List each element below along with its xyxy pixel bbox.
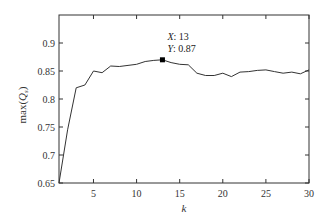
x-tick-label: 20 <box>218 188 228 199</box>
x-tick-label: 10 <box>132 188 142 199</box>
y-tick-label: 0.75 <box>38 122 56 133</box>
y-tick-label: 0.65 <box>38 178 56 189</box>
x-tick-label: 5 <box>91 188 96 199</box>
x-axis-label: k <box>182 202 188 214</box>
x-tick-label: 25 <box>261 188 271 199</box>
line-chart: 51015202530 0.650.70.750.80.850.9 X: 13 … <box>0 0 329 224</box>
y-tick-label: 0.9 <box>43 38 56 49</box>
datatip-marker[interactable] <box>160 57 165 62</box>
datatip-y-text: Y: 0.87 <box>167 43 195 54</box>
y-axis-label: max(Qs) <box>16 86 30 123</box>
y-tick-label: 0.7 <box>43 150 56 161</box>
x-tick-label: 30 <box>304 188 314 199</box>
datatip-x-text: X: 13 <box>166 31 188 42</box>
x-tick-label: 15 <box>175 188 185 199</box>
y-tick-label: 0.8 <box>43 94 56 105</box>
y-tick-label: 0.85 <box>38 66 56 77</box>
